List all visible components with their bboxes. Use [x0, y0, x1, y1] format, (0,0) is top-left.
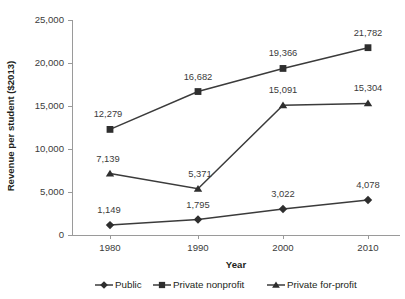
- legend-label: Public: [115, 279, 142, 290]
- legend-label: Private nonprofit: [173, 279, 245, 290]
- chart-legend: PublicPrivate nonprofitPrivate for-profi…: [95, 279, 357, 290]
- y-axis-ticks: 05,00010,00015,00020,00025,000: [35, 14, 72, 240]
- legend-item-private-nonprofit[interactable]: Private nonprofit: [153, 279, 245, 290]
- x-tick-label: 2010: [357, 242, 378, 253]
- data-point-label: 12,279: [94, 108, 123, 119]
- data-point-label: 16,682: [184, 71, 213, 82]
- data-point-label: 15,091: [269, 84, 298, 95]
- y-tick-label: 5,000: [40, 186, 64, 197]
- data-series: [106, 44, 372, 229]
- data-point-square: [107, 126, 114, 133]
- data-point-diamond: [106, 221, 114, 229]
- series-line-private-for-profit: [110, 103, 368, 188]
- data-point-diamond: [279, 205, 287, 213]
- data-point-label: 5,371: [188, 168, 211, 179]
- x-tick-label: 2000: [272, 242, 293, 253]
- data-point-label: 21,782: [354, 27, 383, 38]
- x-tick-label: 1980: [99, 242, 120, 253]
- legend-item-private-for-profit[interactable]: Private for-profit: [267, 279, 357, 290]
- x-axis-title: Year: [226, 259, 247, 270]
- data-point-diamond: [194, 215, 202, 223]
- data-point-diamond: [364, 196, 372, 204]
- legend-item-public[interactable]: Public: [95, 279, 142, 290]
- chart-container: 05,00010,00015,00020,00025,000 198019902…: [0, 0, 405, 299]
- data-point-square: [195, 88, 202, 95]
- data-point-square: [280, 65, 287, 72]
- y-tick-label: 20,000: [35, 57, 64, 68]
- x-axis-ticks: 1980199020002010: [99, 235, 378, 253]
- legend-marker-square: [159, 282, 165, 288]
- legend-marker-diamond: [100, 281, 108, 289]
- line-chart: 05,00010,00015,00020,00025,000 198019902…: [0, 0, 405, 299]
- data-point-label: 15,304: [354, 82, 383, 93]
- y-tick-label: 15,000: [35, 100, 64, 111]
- data-point-label: 19,366: [269, 47, 298, 58]
- data-point-label: 3,022: [271, 188, 294, 199]
- legend-label: Private for-profit: [287, 279, 357, 290]
- data-point-square: [365, 44, 372, 51]
- y-axis-title: Revenue per student ($2013): [5, 61, 16, 192]
- x-tick-label: 1990: [187, 242, 208, 253]
- y-tick-label: 25,000: [35, 14, 64, 25]
- y-tick-label: 10,000: [35, 143, 64, 154]
- data-point-label: 1,795: [186, 199, 209, 210]
- y-tick-label: 0: [59, 229, 64, 240]
- data-point-label: 4,078: [356, 179, 379, 190]
- data-point-label: 1,149: [97, 204, 120, 215]
- series-line-public: [110, 200, 368, 225]
- data-point-triangle: [106, 170, 114, 177]
- data-point-label: 7,139: [96, 153, 119, 164]
- series-line-private-nonprofit: [110, 48, 368, 130]
